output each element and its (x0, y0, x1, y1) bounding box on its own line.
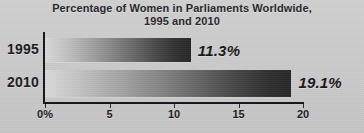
x-axis-tick-label: 20 (283, 108, 323, 120)
category-label-2010: 2010 (6, 74, 39, 90)
x-axis-tick-label: 10 (154, 108, 194, 120)
category-label-1995: 1995 (6, 41, 39, 57)
plot-area: 1995 2010 11.3% 19.1% 0%5101520 (0, 0, 364, 133)
value-label-2010: 19.1% (298, 74, 342, 91)
x-axis-tick-label: 0% (25, 108, 65, 120)
bar-chart: Percentage of Women in Parliaments World… (0, 0, 364, 133)
x-axis-tick-label: 5 (90, 108, 130, 120)
value-label-1995: 11.3% (198, 42, 240, 59)
bar-1995 (45, 38, 191, 62)
x-axis-tick-label: 15 (219, 108, 259, 120)
bar-2010 (45, 70, 291, 97)
